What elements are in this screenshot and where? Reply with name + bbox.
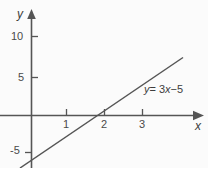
y-tick-label-5: 5 [18, 72, 24, 83]
x-tick-label-1: 1 [63, 119, 69, 130]
y-axis-label: y [17, 9, 23, 20]
x-axis-label: x [195, 121, 201, 132]
equation-constant: −5 [171, 83, 184, 95]
y-tick-label-neg5: -5 [10, 145, 20, 156]
y-tick-label-10: 10 [11, 31, 23, 42]
equation-operator: = 3 [150, 83, 166, 95]
data-line-y-equals-3x-minus-5 [20, 58, 183, 169]
equation-annotation: y= 3x−5 [144, 84, 183, 95]
graph-figure: 10 5 -5 1 2 3 y x y= 3x−5 [0, 0, 208, 168]
x-tick-label-3: 3 [139, 119, 145, 130]
y-axis-arrowhead [27, 9, 36, 19]
x-tick-label-2: 2 [101, 119, 107, 130]
